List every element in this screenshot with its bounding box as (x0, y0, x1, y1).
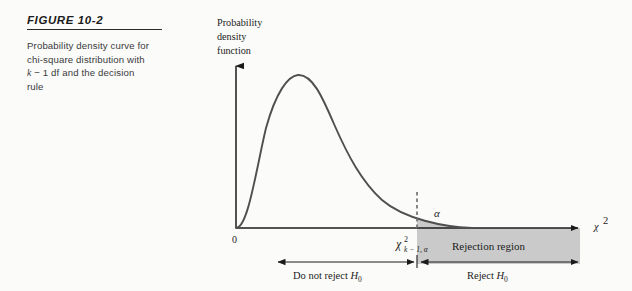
do-not-reject-subscript: 0 (358, 275, 362, 284)
alpha-symbol: α (434, 207, 440, 219)
chi-square-density-curve (236, 75, 472, 228)
y-axis-label-line-3: function (217, 45, 251, 56)
critical-value-subscript: k − 1, α (404, 245, 429, 254)
reject-subscript: 0 (504, 275, 508, 284)
figure-root: FIGURE 10-2 Probability density curve fo… (0, 0, 632, 291)
chi-square-plot: 0 Probability density function χ 2 α Rej… (0, 0, 632, 291)
x-axis-label-exponent: 2 (603, 215, 608, 226)
y-axis-label-line-1: Probability (217, 17, 263, 28)
x-axis-label-chi: χ (593, 221, 599, 232)
origin-tick-label: 0 (232, 234, 237, 245)
do-not-reject-label: Do not reject H0 (293, 270, 362, 284)
reject-text: Reject (467, 270, 496, 281)
critical-value-chi: χ (395, 237, 402, 251)
alpha-tail-shading (236, 75, 522, 228)
rejection-region-label: Rejection region (452, 240, 526, 252)
critical-value-exponent: 2 (404, 235, 408, 244)
y-axis-label-line-2: density (217, 31, 247, 42)
do-not-reject-text: Do not reject (293, 270, 350, 281)
reject-label: Reject H0 (467, 270, 508, 284)
